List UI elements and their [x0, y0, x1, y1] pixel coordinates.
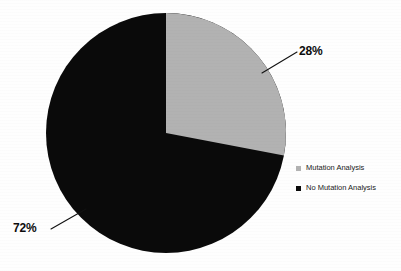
legend-label-mutation-analysis: Mutation Analysis [306, 164, 364, 172]
legend-item-mutation-analysis[interactable]: Mutation Analysis [296, 158, 400, 178]
legend-swatch-icon-mutation-analysis [296, 166, 301, 171]
slice-value-label-28: 28% [299, 44, 322, 58]
chart-legend: Mutation Analysis No Mutation Analysis [296, 158, 400, 198]
legend-item-no-mutation-analysis[interactable]: No Mutation Analysis [296, 178, 400, 198]
legend-label-no-mutation-analysis: No Mutation Analysis [306, 184, 376, 192]
pie-chart-figure: 28% 72% Mutation Analysis No Mutation An… [0, 0, 401, 271]
pie-slice-mutation-analysis[interactable] [166, 13, 286, 155]
pie-chart-canvas [0, 0, 401, 271]
slice-value-label-72: 72% [13, 221, 36, 235]
leader-line-28 [262, 52, 297, 73]
legend-swatch-icon-no-mutation-analysis [296, 186, 301, 191]
leader-line-72 [51, 209, 86, 229]
